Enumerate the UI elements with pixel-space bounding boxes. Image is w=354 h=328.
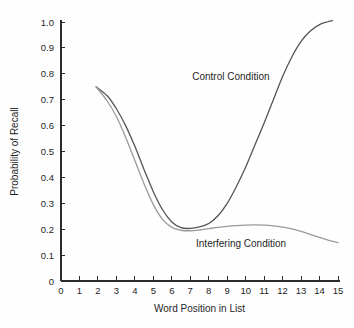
- x-tick-label: 2: [95, 285, 100, 296]
- y-tick-label: 0.3: [41, 198, 54, 209]
- y-tick-label: 0.9: [41, 42, 54, 53]
- chart-figure: 00.10.20.30.40.50.60.70.80.91.0 01234567…: [0, 0, 354, 328]
- y-tick-label: 0.5: [41, 146, 54, 157]
- y-tick-label: 0.6: [41, 120, 54, 131]
- y-tick-label: 0.8: [41, 68, 54, 79]
- x-tick-label: 7: [188, 285, 193, 296]
- x-tick-label: 12: [277, 285, 288, 296]
- x-tick-label: 1: [77, 285, 82, 296]
- x-tick-label: 6: [169, 285, 174, 296]
- x-axis-ticks: 0123456789101112131415: [58, 276, 343, 296]
- x-tick-label: 14: [314, 285, 325, 296]
- curve-interfering-condition: [96, 87, 338, 243]
- x-tick-label: 9: [225, 285, 230, 296]
- data-curves: [96, 21, 338, 243]
- x-axis-title: Word Position in List: [154, 303, 245, 314]
- x-tick-label: 4: [132, 285, 137, 296]
- serial-position-chart: 00.10.20.30.40.50.60.70.80.91.0 01234567…: [0, 0, 354, 328]
- y-axis-title: Probability of Recall: [9, 107, 20, 195]
- y-tick-label: 0.7: [41, 94, 54, 105]
- y-tick-label: 0.1: [41, 250, 54, 261]
- x-tick-label: 3: [114, 285, 119, 296]
- x-tick-label: 10: [240, 285, 251, 296]
- series-label-interfering-condition: Interfering Condition: [196, 238, 286, 249]
- y-tick-label: 0.2: [41, 224, 54, 235]
- curve-control-condition: [96, 21, 332, 229]
- y-tick-label: 0: [49, 276, 54, 287]
- x-tick-label: 15: [333, 285, 344, 296]
- x-tick-label: 11: [259, 285, 269, 296]
- series-label-control-condition: Control Condition: [192, 71, 269, 82]
- x-tick-label: 0: [58, 285, 63, 296]
- x-tick-label: 13: [296, 285, 307, 296]
- series-annotations: Control ConditionInterfering Condition: [192, 71, 286, 248]
- y-tick-label: 0.4: [41, 172, 54, 183]
- x-tick-label: 5: [151, 285, 156, 296]
- y-tick-label: 1.0: [41, 17, 54, 28]
- x-tick-label: 8: [206, 285, 211, 296]
